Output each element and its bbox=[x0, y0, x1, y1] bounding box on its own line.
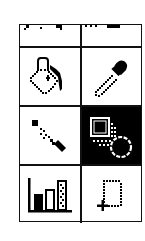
tool-row-1 bbox=[20, 46, 141, 107]
tool-eyedropper[interactable] bbox=[80, 48, 142, 107]
line-tool-icon bbox=[26, 114, 74, 160]
tool-palette bbox=[19, 24, 142, 222]
cut-off-icon bbox=[20, 25, 80, 45]
tool-line[interactable] bbox=[20, 107, 80, 166]
eyedropper-icon bbox=[87, 55, 135, 101]
cut-off-icon bbox=[82, 25, 142, 45]
tool-row-2 bbox=[20, 105, 141, 166]
bar-chart-icon bbox=[24, 172, 76, 218]
paint-bucket-icon bbox=[26, 55, 74, 101]
marquee-select-icon bbox=[87, 172, 135, 218]
tool-row-partial bbox=[20, 25, 141, 46]
tool-shapes[interactable] bbox=[80, 107, 142, 166]
tool-partial-right[interactable] bbox=[80, 25, 142, 46]
tool-marquee-select[interactable] bbox=[80, 166, 142, 223]
tool-row-3 bbox=[20, 164, 141, 223]
tool-chart[interactable] bbox=[20, 166, 80, 223]
tool-paint-bucket[interactable] bbox=[20, 48, 80, 107]
shapes-icon bbox=[85, 113, 137, 161]
tool-partial-left[interactable] bbox=[20, 25, 80, 46]
